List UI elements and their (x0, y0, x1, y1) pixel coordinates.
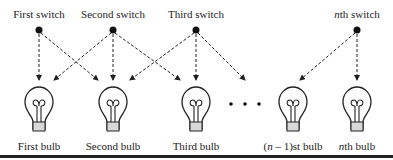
switch-dot-third (193, 27, 200, 34)
bulb-label-second: Second bulb (86, 140, 141, 152)
bulb-label-suffix: th bulb (344, 140, 375, 152)
bulb-label-nth: nth bulb (339, 140, 375, 152)
ellipsis-dots (229, 102, 261, 106)
switch-bulb-diagram (0, 0, 393, 160)
bulb-icon-second (99, 87, 127, 131)
bulb-icon-third (182, 87, 210, 131)
bulb-icon-nth (343, 87, 371, 131)
switch-label-nth: nth switch (334, 8, 380, 20)
switch-label-suffix: th switch (340, 8, 380, 20)
switch-label-second: Second switch (81, 8, 145, 20)
bottom-rule (0, 155, 393, 158)
switch-dot-first (36, 27, 43, 34)
switch-label-third: Third switch (168, 8, 224, 20)
bulb-icon-n-minus-1 (279, 87, 307, 131)
bulb-label-first: First bulb (18, 140, 60, 152)
bulb-label-third: Third bulb (173, 140, 220, 152)
bulb-label-n-minus-1: (n – 1)st bulb (264, 140, 323, 152)
connection-arrows (39, 33, 357, 80)
bulb-label-suffix: – 1)st bulb (273, 140, 323, 152)
switch-label-first: First switch (13, 8, 65, 20)
switch-dot-second (110, 27, 117, 34)
switch-dot-nth (354, 27, 361, 34)
bulb-icon-first (25, 87, 53, 131)
